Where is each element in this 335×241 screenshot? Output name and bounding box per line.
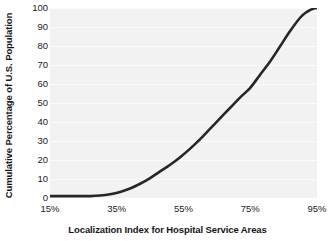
y-tick-label: 30 bbox=[14, 136, 48, 146]
x-tick-label: 35% bbox=[94, 203, 140, 215]
y-tick-label: 40 bbox=[14, 117, 48, 127]
chart-figure: Cumulative Percentage of U.S. Population… bbox=[0, 0, 335, 241]
y-tick-label: 50 bbox=[14, 98, 48, 108]
y-tick-label: 10 bbox=[14, 174, 48, 184]
x-tick-label: 55% bbox=[161, 203, 207, 215]
cumulative-population-curve bbox=[50, 8, 317, 196]
x-tick-label: 15% bbox=[27, 203, 73, 215]
x-axis-title: Localization Index for Hospital Service … bbox=[0, 224, 335, 236]
line-series-svg bbox=[50, 8, 317, 198]
y-tick-label: 20 bbox=[14, 155, 48, 165]
y-tick-label: 90 bbox=[14, 22, 48, 32]
y-tick-label: 60 bbox=[14, 79, 48, 89]
x-axis-tick-labels: 15%35%55%75%95% bbox=[0, 203, 335, 217]
x-tick-label: 75% bbox=[227, 203, 273, 215]
x-tick-label: 95% bbox=[294, 203, 335, 215]
plot-area bbox=[50, 8, 317, 198]
y-tick-label: 70 bbox=[14, 60, 48, 70]
y-tick-label: 80 bbox=[14, 41, 48, 51]
y-tick-label: 100 bbox=[14, 3, 48, 13]
y-tick-label: 0 bbox=[14, 193, 48, 203]
